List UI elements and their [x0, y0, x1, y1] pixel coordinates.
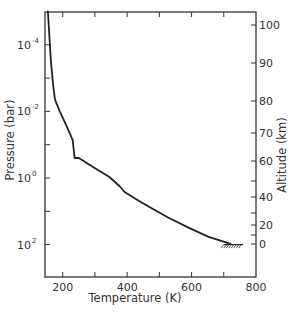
y-tick-label: 100 — [17, 170, 36, 185]
y2-tick-label: 70 — [259, 127, 273, 140]
plot-frame — [45, 12, 256, 277]
y2-axis-title: Altitude (km) — [275, 117, 289, 192]
x-tick-label: 600 — [181, 281, 202, 294]
y2-tick-label: 40 — [259, 191, 273, 204]
x-axis-ticks: 200400600800 — [52, 12, 266, 294]
x-tick-label: 200 — [52, 281, 73, 294]
y2-tick-label: 80 — [259, 95, 273, 108]
y2-tick-label: 90 — [259, 57, 273, 70]
temperature-profile-line — [48, 12, 231, 244]
y-tick-label: 10-2 — [17, 103, 39, 118]
y2-tick-label: 20 — [259, 219, 273, 232]
x-axis-title: Temperature (K) — [87, 291, 181, 305]
chart: 200400600800 10-410-2100102 100908070604… — [0, 0, 299, 315]
surface-hatch-icon — [221, 245, 243, 249]
y2-tick-label: 100 — [259, 19, 280, 32]
x-tick-label: 800 — [246, 281, 267, 294]
y-tick-label: 102 — [17, 237, 36, 252]
y-tick-label: 10-4 — [17, 37, 40, 52]
y2-tick-label: 0 — [259, 238, 266, 251]
y-axis-title: Pressure (bar) — [3, 100, 17, 181]
y2-tick-label: 60 — [259, 155, 273, 168]
